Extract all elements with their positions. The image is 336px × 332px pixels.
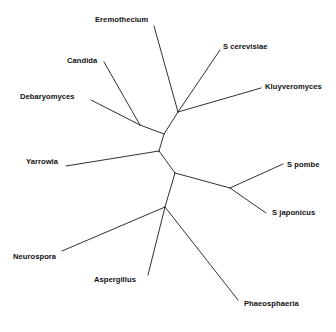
taxon-label-yarrowia: Yarrowia [26,157,58,166]
tip-s-japonicus [230,188,266,213]
internal-right-to-filament [165,173,175,207]
taxon-label-s-pombe: S pombe [287,160,319,169]
tip-s-cerevisiae [178,50,220,112]
taxon-label-s-japonicus: S japonicus [272,208,315,217]
taxon-label-eremothecium: Eremothecium [95,15,148,24]
tip-kluyveromyces [178,88,261,112]
internal-center-to-yeast [159,112,178,151]
tip-eremothecium [154,26,178,112]
tip-yarrowia [66,151,159,166]
tree-branches-canvas [0,0,336,332]
tip-aspergillus [148,207,165,275]
internal-center-spine [159,151,175,173]
taxon-label-debaryomyces: Debaryomyces [20,92,75,101]
taxon-label-kluyveromyces: Kluyveromyces [265,82,322,91]
tip-phaeosphaeria [165,207,238,300]
taxon-label-s-cerevisiae: S cerevisiae [223,42,268,51]
taxon-label-candida: Candida [67,56,97,65]
tip-neurospora [62,207,165,251]
internal-right-to-schizo [175,173,230,188]
taxon-label-neurospora: Neurospora [13,252,56,261]
internal-yeast-to-candidadeb [140,125,164,134]
taxon-label-aspergillus: Aspergillus [94,275,136,284]
phylogenetic-tree-figure: EremotheciumS cerevisiaeCandidaKluyverom… [0,0,336,332]
tip-s-pombe [230,164,283,188]
taxon-label-phaeosphaeria: Phaeosphaeria [244,299,299,308]
